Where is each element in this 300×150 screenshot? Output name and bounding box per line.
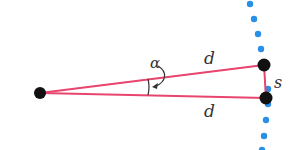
d-top-label: d: [204, 48, 215, 68]
line-bottom-d: [40, 93, 266, 98]
alpha-label: α: [150, 54, 160, 72]
dotted-arc: [247, 1, 271, 150]
bottom-point: [260, 92, 273, 105]
arrow-head: [152, 83, 158, 89]
angle-arc: [148, 79, 149, 95]
d-bottom-label: d: [204, 101, 215, 121]
apex-point: [34, 87, 46, 99]
s-label: s: [274, 73, 282, 92]
top-point: [258, 59, 271, 72]
angle-diagram: α d d s: [0, 0, 300, 150]
